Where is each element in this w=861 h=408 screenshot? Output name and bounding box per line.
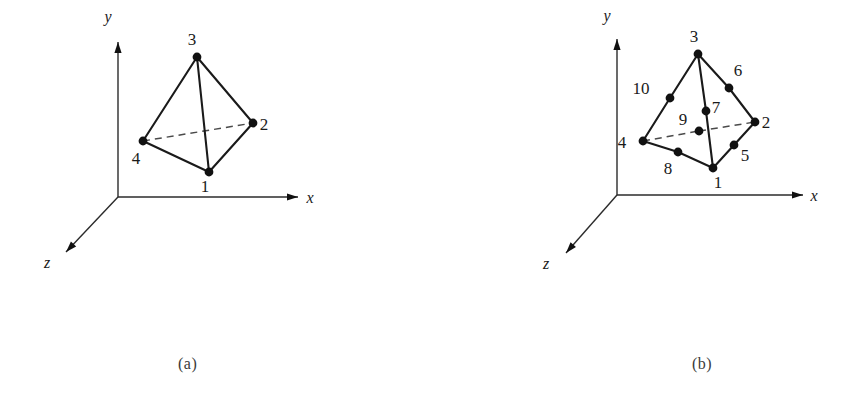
edge-1-2 — [209, 123, 253, 172]
panel-b-node-labels: 12345678910 — [618, 27, 771, 192]
edge-4-1 — [143, 141, 209, 172]
node-label-2: 2 — [260, 115, 269, 134]
panel-a-y-axis-label: y — [102, 8, 112, 26]
node-label-7: 7 — [712, 98, 721, 117]
caption-b: (b) — [692, 355, 712, 373]
panel-a-axes: x y z — [43, 8, 314, 271]
panel-a-z-axis-label: z — [43, 254, 51, 271]
edge-6-2 — [729, 88, 755, 122]
edge-4-8 — [643, 141, 678, 152]
node-label-4: 4 — [618, 133, 627, 152]
panel-a-edges — [143, 57, 253, 172]
panel-b-axes: x y z — [542, 7, 818, 272]
panel-a-y-arrowhead — [114, 42, 121, 53]
node-label-3: 3 — [188, 30, 197, 49]
node-dot-9 — [695, 127, 704, 136]
edge-3-2 — [197, 57, 253, 123]
node-dot-5 — [730, 141, 739, 150]
panel-a-linear-tetrahedron: x y z 1234 — [43, 8, 314, 271]
node-dot-6 — [725, 84, 734, 93]
node-dot-1 — [709, 164, 718, 173]
node-dot-2 — [751, 118, 760, 127]
node-label-2: 2 — [762, 113, 771, 132]
node-dot-2 — [249, 119, 258, 128]
node-dot-4 — [139, 137, 148, 146]
node-label-9: 9 — [679, 110, 688, 129]
node-label-5: 5 — [741, 146, 750, 165]
node-label-1: 1 — [201, 177, 210, 196]
panel-a-hidden-edges — [143, 123, 253, 141]
node-dot-3 — [193, 53, 202, 62]
edge-3-10 — [670, 54, 698, 98]
edge-10-4 — [643, 98, 670, 141]
edge-7-1 — [706, 111, 713, 168]
node-dot-10 — [666, 94, 675, 103]
hidden-edge-4-2 — [143, 123, 253, 141]
figure-container: x y z 1234 x y z — [0, 0, 861, 408]
edge-8-1 — [678, 152, 713, 168]
panel-b-z-axis-label: z — [542, 255, 550, 272]
node-label-3: 3 — [690, 27, 699, 46]
edge-3-1 — [197, 57, 209, 172]
node-dot-1 — [205, 168, 214, 177]
edge-1-5 — [713, 145, 734, 168]
panel-b-y-arrowhead — [613, 39, 620, 50]
node-label-10: 10 — [633, 79, 650, 98]
figure-svg: x y z 1234 x y z — [0, 0, 861, 408]
panel-b-x-axis-label: x — [809, 187, 817, 204]
node-dot-3 — [694, 50, 703, 59]
panel-b-z-axis — [566, 195, 617, 253]
node-label-1: 1 — [714, 173, 723, 192]
panel-b-x-arrowhead — [792, 191, 803, 198]
node-dot-8 — [674, 148, 683, 157]
panel-b-y-axis-label: y — [601, 7, 611, 25]
panel-b-quadratic-tetrahedron: x y z 12345678910 — [542, 7, 818, 272]
node-label-4: 4 — [132, 149, 141, 168]
panel-a-z-axis — [66, 197, 118, 252]
caption-a: (a) — [178, 355, 197, 373]
hidden-edge-4-9 — [643, 131, 699, 141]
node-dot-7 — [702, 107, 711, 116]
panel-a-x-arrowhead — [287, 193, 298, 200]
node-label-8: 8 — [664, 159, 673, 178]
node-dot-4 — [639, 137, 648, 146]
node-label-6: 6 — [734, 61, 743, 80]
panel-a-x-axis-label: x — [305, 189, 313, 206]
edge-3-4 — [143, 57, 197, 141]
